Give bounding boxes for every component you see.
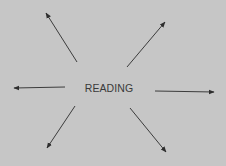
center-label: READING: [74, 82, 144, 94]
diagram-canvas: READING: [0, 0, 226, 166]
arrow-southwest-icon: [47, 106, 75, 148]
arrow-east-icon: [155, 91, 214, 92]
arrow-northwest-icon: [46, 13, 77, 62]
arrow-southeast-icon: [130, 108, 166, 152]
arrow-northeast-icon: [127, 22, 165, 67]
arrow-west-icon: [14, 87, 65, 88]
